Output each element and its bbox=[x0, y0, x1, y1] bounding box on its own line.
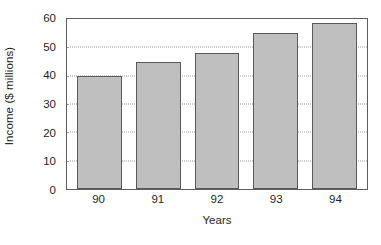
y-tick-label: 20 bbox=[43, 127, 56, 139]
y-axis-title-text: Income ($ millions) bbox=[3, 47, 15, 145]
y-tick-label: 0 bbox=[50, 184, 56, 196]
bar-slot bbox=[188, 19, 247, 189]
bar-92 bbox=[195, 53, 240, 189]
x-axis-title: Years bbox=[66, 214, 368, 226]
bars-layer bbox=[67, 19, 367, 189]
y-axis-tick-labels: 60 50 40 30 20 10 0 bbox=[22, 18, 62, 190]
bar-slot bbox=[305, 19, 364, 189]
y-tick-label: 10 bbox=[43, 155, 56, 167]
bar-slot bbox=[129, 19, 188, 189]
bar-90 bbox=[77, 76, 122, 189]
bar-slot bbox=[246, 19, 305, 189]
bar-slot bbox=[70, 19, 129, 189]
x-tick-label-90: 90 bbox=[69, 193, 128, 213]
bar-chart-figure: Income ($ millions) 60 50 40 30 20 10 0 bbox=[0, 0, 381, 245]
x-tick-label-94: 94 bbox=[306, 193, 365, 213]
bar-91 bbox=[136, 62, 181, 190]
x-tick-label-93: 93 bbox=[247, 193, 306, 213]
y-tick-label: 30 bbox=[43, 98, 56, 110]
x-tick-label-92: 92 bbox=[187, 193, 246, 213]
y-axis-title: Income ($ millions) bbox=[0, 0, 18, 192]
y-tick-label: 60 bbox=[43, 12, 56, 24]
bar-94 bbox=[312, 23, 357, 189]
plot-area bbox=[66, 18, 368, 190]
y-tick-label: 40 bbox=[43, 69, 56, 81]
y-tick-label: 50 bbox=[43, 41, 56, 53]
x-tick-label-91: 91 bbox=[128, 193, 187, 213]
bar-93 bbox=[253, 33, 298, 189]
x-axis-tick-labels: 90 91 92 93 94 bbox=[66, 193, 368, 213]
